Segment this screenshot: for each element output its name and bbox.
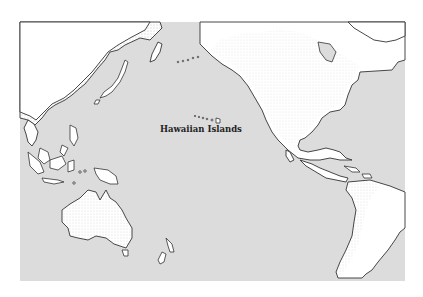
hawaiian-islands-label: Hawaiian Islands [160,124,242,134]
pacific-map [0,0,423,297]
